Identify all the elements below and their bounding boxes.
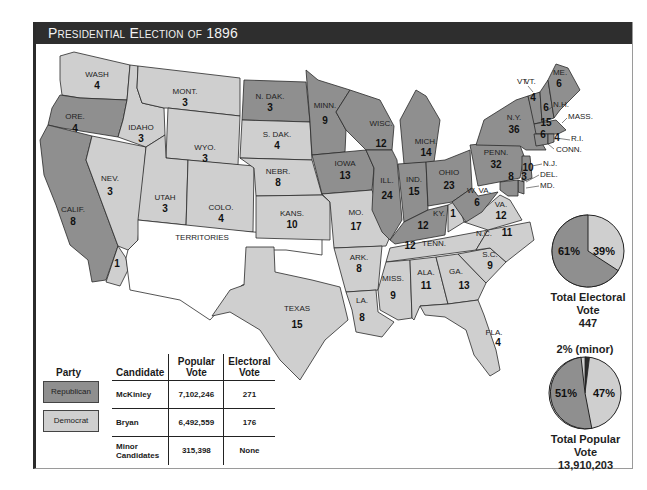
svg-text:W. VA.: W. VA. [467, 186, 491, 195]
svg-text:COLO.: COLO. [209, 203, 234, 212]
state-ndak [242, 80, 310, 122]
svg-text:8: 8 [356, 263, 362, 274]
svg-text:N.C.: N.C. [476, 229, 492, 238]
svg-text:1: 1 [450, 208, 456, 219]
svg-text:OHIO: OHIO [439, 168, 459, 177]
electoral-total: 447 [543, 317, 633, 330]
svg-text:CALIF.: CALIF. [61, 205, 85, 214]
svg-text:3: 3 [182, 97, 188, 108]
svg-text:8: 8 [275, 177, 281, 188]
party-header: Party [56, 367, 81, 378]
svg-text:VT.: VT. [517, 77, 529, 86]
svg-text:WASH: WASH [85, 70, 109, 79]
svg-text:13: 13 [458, 280, 470, 291]
svg-text:6: 6 [543, 102, 549, 113]
svg-text:MONT.: MONT. [173, 87, 198, 96]
svg-text:MISS.: MISS. [382, 274, 404, 283]
svg-text:WYO.: WYO. [194, 143, 215, 152]
state-md [500, 180, 518, 196]
svg-text:MASS.: MASS. [568, 112, 593, 121]
results-table: Candidate PopularVote ElectoralVote McKi… [112, 354, 275, 465]
svg-text:17: 17 [350, 221, 362, 232]
svg-text:4: 4 [495, 337, 501, 348]
svg-text:15: 15 [408, 186, 420, 197]
svg-text:6: 6 [540, 129, 546, 140]
svg-text:47%: 47% [593, 387, 615, 399]
popular-minor-label: 2% (minor) [545, 343, 625, 356]
svg-text:12: 12 [375, 138, 387, 149]
svg-text:3: 3 [267, 102, 273, 113]
svg-text:ARK.: ARK. [350, 253, 369, 262]
svg-text:15: 15 [540, 117, 552, 128]
svg-text:KANS.: KANS. [280, 209, 304, 218]
popular-vote-pie: 51% 47% [549, 357, 621, 429]
svg-text:12: 12 [495, 210, 507, 221]
svg-text:TERRITORIES: TERRITORIES [175, 233, 229, 242]
svg-text:ME.: ME. [553, 68, 567, 77]
svg-text:24: 24 [381, 190, 393, 201]
svg-text:DEL.: DEL. [540, 170, 558, 179]
table-row: Bryan 6,492,559 176 [112, 409, 275, 437]
svg-text:51%: 51% [555, 387, 577, 399]
svg-text:11: 11 [502, 227, 513, 238]
svg-text:MO.: MO. [348, 208, 363, 217]
svg-text:ILL.: ILL. [380, 176, 393, 185]
svg-text:UTAH: UTAH [154, 193, 175, 202]
svg-text:3: 3 [521, 171, 527, 182]
svg-text:61%: 61% [558, 245, 580, 257]
svg-text:MICH.: MICH. [415, 137, 438, 146]
svg-text:LA.: LA. [356, 296, 368, 305]
state-del [518, 180, 524, 194]
svg-text:3: 3 [138, 133, 144, 144]
svg-text:N.Y.: N.Y. [507, 113, 522, 122]
svg-text:12: 12 [404, 240, 416, 251]
svg-text:15: 15 [291, 319, 303, 330]
electoral-pie-caption: Total Electoral Vote 447 [543, 291, 633, 330]
svg-text:4: 4 [218, 213, 224, 224]
svg-text:8: 8 [70, 216, 76, 227]
svg-text:12: 12 [417, 220, 429, 231]
col-electoral-vote: ElectoralVote [224, 354, 275, 381]
electoral-caption-text: Total Electoral Vote [543, 291, 633, 317]
svg-text:4: 4 [94, 80, 100, 91]
svg-text:3: 3 [162, 203, 168, 214]
svg-text:MINN.: MINN. [314, 101, 337, 110]
col-popular-vote: PopularVote [169, 354, 224, 381]
svg-text:39%: 39% [593, 245, 615, 257]
svg-text:13: 13 [339, 170, 351, 181]
svg-text:11: 11 [421, 280, 432, 291]
svg-text:6: 6 [474, 197, 480, 208]
svg-text:8: 8 [508, 171, 514, 182]
svg-text:9: 9 [390, 290, 396, 301]
svg-text:KY.: KY. [433, 209, 445, 218]
table-row: MinorCandidates 315,398 None [112, 437, 275, 465]
svg-text:36: 36 [508, 124, 520, 135]
svg-text:4: 4 [554, 132, 560, 143]
svg-text:32: 32 [490, 159, 502, 170]
svg-text:WISC.: WISC. [369, 119, 392, 128]
legend-swatch-republican: Republican [43, 381, 99, 403]
svg-text:TENN.: TENN. [422, 239, 446, 248]
svg-text:3: 3 [202, 153, 208, 164]
svg-text:CONN.: CONN. [556, 145, 582, 154]
col-candidate: Candidate [112, 354, 169, 381]
svg-text:1: 1 [114, 258, 120, 269]
svg-text:R.I.: R.I. [571, 134, 583, 143]
svg-text:NEV.: NEV. [101, 174, 119, 183]
svg-text:9: 9 [322, 115, 328, 126]
svg-text:VA.: VA. [495, 200, 507, 209]
svg-text:PENN.: PENN. [484, 148, 508, 157]
svg-text:NEBR.: NEBR. [266, 167, 290, 176]
svg-text:N. DAK.: N. DAK. [256, 92, 285, 101]
svg-text:4: 4 [530, 92, 536, 103]
popular-total: 13,910,203 [538, 459, 633, 472]
svg-text:8: 8 [359, 312, 365, 323]
svg-text:MD.: MD. [540, 181, 555, 190]
svg-text:S.C.: S.C. [482, 250, 498, 259]
svg-text:9: 9 [487, 260, 493, 271]
svg-text:GA.: GA. [449, 267, 463, 276]
svg-text:ALA.: ALA. [417, 268, 434, 277]
svg-text:23: 23 [443, 180, 455, 191]
svg-text:N.H.: N.H. [553, 100, 569, 109]
svg-text:4: 4 [274, 140, 280, 151]
